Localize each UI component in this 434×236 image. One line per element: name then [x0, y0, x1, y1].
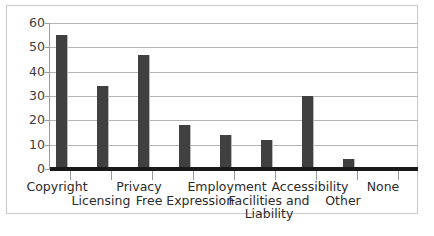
y-axis-label-20: 20 [11, 114, 45, 127]
gridline-60 [50, 23, 418, 24]
y-tick-mark-40 [45, 72, 50, 73]
bar-accessibility[interactable] [302, 96, 314, 169]
y-tick-mark-20 [45, 120, 50, 121]
gridline-40 [50, 72, 418, 73]
category-label-copyright: Copyright [15, 180, 99, 193]
category-tick-7 [357, 171, 358, 180]
bar-employment[interactable] [220, 135, 232, 169]
y-axis-label-40: 40 [11, 66, 45, 79]
y-axis-label-30: 30 [11, 90, 45, 103]
bar-facilities-liability[interactable] [261, 140, 273, 169]
y-tick-mark-30 [45, 96, 50, 97]
y-axis-label-50: 50 [11, 41, 45, 54]
category-label-facilities-liability: Facilities and Liability [219, 194, 319, 220]
category-label-privacy: Privacy [97, 180, 181, 193]
category-label-accessibility: Accessibility [262, 180, 358, 193]
plot-area [50, 23, 418, 169]
y-tick-mark-50 [45, 47, 50, 48]
bar-copyright[interactable] [56, 35, 68, 169]
bar-licensing[interactable] [97, 86, 109, 169]
bar-privacy[interactable] [138, 55, 150, 169]
category-label-none: None [355, 180, 411, 193]
chart-frame: 60 50 40 30 20 10 0 Copyright Licensing … [6, 5, 418, 214]
y-tick-mark-10 [45, 145, 50, 146]
category-tick-1 [111, 171, 112, 180]
category-label-employment: Employment [180, 180, 274, 193]
y-axis-label-0: 0 [11, 163, 45, 176]
y-axis-label-60: 60 [11, 17, 45, 30]
gridline-50 [50, 47, 418, 48]
category-label-facilities-line2: Liability [245, 206, 294, 221]
y-axis-label-10: 10 [11, 139, 45, 152]
y-tick-mark-0 [45, 169, 50, 170]
category-label-other: Other [313, 194, 373, 207]
bar-free-expression[interactable] [179, 125, 191, 169]
y-tick-mark-60 [45, 23, 50, 24]
